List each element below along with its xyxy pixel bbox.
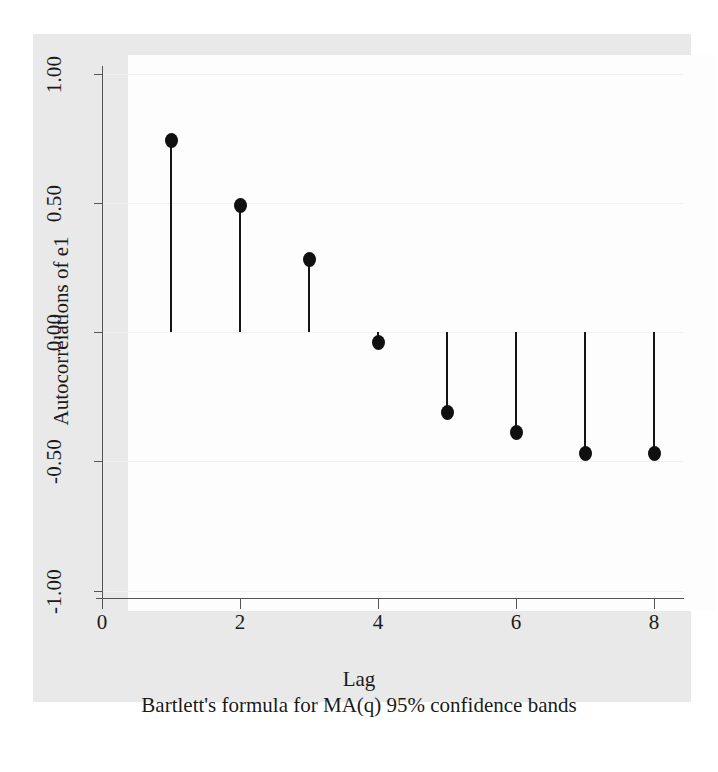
x-tick-label-2: 2 bbox=[220, 612, 260, 633]
acf-marker-lag-8[interactable] bbox=[648, 446, 661, 461]
acf-marker-lag-3[interactable] bbox=[303, 252, 316, 267]
x-tick-label-4: 4 bbox=[358, 612, 398, 633]
y-tick-mark-0.00 bbox=[94, 332, 103, 333]
gridline-0.00 bbox=[103, 332, 683, 333]
acf-stem-lag-1 bbox=[170, 141, 172, 332]
y-tick-mark-0.50 bbox=[94, 203, 103, 204]
gridline-0.50 bbox=[103, 203, 683, 204]
x-tick-mark-2 bbox=[240, 599, 241, 609]
acf-marker-lag-6[interactable] bbox=[510, 425, 523, 440]
graph-region bbox=[33, 34, 691, 702]
x-tick-mark-0 bbox=[102, 599, 103, 609]
x-tick-label-8: 8 bbox=[634, 612, 674, 633]
acf-stem-lag-8 bbox=[653, 332, 655, 453]
chart-caption: Bartlett's formula for MA(q) 95% confide… bbox=[0, 694, 718, 716]
x-axis-line bbox=[96, 598, 684, 599]
x-axis-title: Lag bbox=[0, 668, 718, 690]
plot-canvas bbox=[128, 55, 716, 611]
acf-stem-lag-2 bbox=[239, 205, 241, 332]
acf-stem-lag-6 bbox=[515, 332, 517, 433]
acf-stem-lag-7 bbox=[584, 332, 586, 453]
y-tick-label-1.00: 1.00 bbox=[44, 43, 65, 107]
gridline--0.50 bbox=[103, 461, 683, 462]
y-tick-mark--1.00 bbox=[94, 591, 103, 592]
y-axis-title: Autocorrelations of e1 bbox=[50, 201, 72, 461]
acf-chart-figure: 1.00 0.50 0.00 -0.50 -1.00 0 2 4 6 8 Aut… bbox=[0, 0, 718, 772]
x-tick-mark-6 bbox=[516, 599, 517, 609]
acf-marker-lag-7[interactable] bbox=[579, 446, 592, 461]
acf-stem-lag-3 bbox=[308, 260, 310, 332]
y-tick-mark--0.50 bbox=[94, 461, 103, 462]
acf-marker-lag-5[interactable] bbox=[441, 405, 454, 420]
acf-stem-lag-5 bbox=[446, 332, 448, 412]
acf-marker-lag-1[interactable] bbox=[165, 133, 178, 148]
acf-marker-lag-2[interactable] bbox=[234, 198, 247, 213]
x-tick-mark-4 bbox=[378, 599, 379, 609]
x-tick-mark-8 bbox=[654, 599, 655, 609]
x-tick-label-6: 6 bbox=[496, 612, 536, 633]
gridline--1.00 bbox=[103, 591, 683, 592]
y-tick-mark-1.00 bbox=[94, 74, 103, 75]
acf-marker-lag-4[interactable] bbox=[372, 335, 385, 350]
y-tick-label--1.00: -1.00 bbox=[44, 560, 65, 624]
gridline-1.00 bbox=[103, 74, 683, 75]
x-tick-label-0: 0 bbox=[82, 612, 122, 633]
